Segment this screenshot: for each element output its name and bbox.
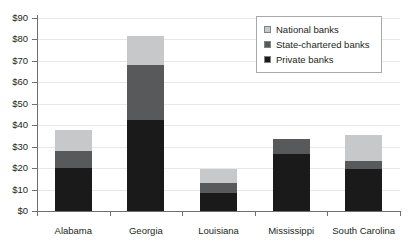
y-axis-tick-label: $30 (12, 142, 28, 152)
bar-segment (200, 169, 237, 183)
y-axis-tick-label: $20 (12, 163, 28, 173)
bar-segment (273, 139, 310, 154)
x-axis-tick-label: Alabama (55, 225, 93, 236)
x-axis-tick-label: Georgia (129, 225, 163, 236)
legend-item-label: Private banks (276, 55, 334, 65)
y-axis-tick-label: $50 (12, 99, 28, 109)
bar-segment (200, 183, 237, 193)
legend-swatch-icon (264, 26, 271, 33)
bar-segment (55, 168, 92, 211)
bar-segment (200, 193, 237, 211)
x-axis-tick-label: Louisiana (198, 225, 239, 236)
bar-segment (273, 154, 310, 211)
bar-segment (345, 169, 382, 211)
x-axis-tick-label: South Carolina (332, 225, 395, 236)
bar-segment (55, 151, 92, 168)
legend-item: State-chartered banks (264, 37, 375, 52)
x-axis-line (37, 211, 400, 212)
x-axis-tick (327, 211, 328, 216)
x-axis-tick (182, 211, 183, 216)
bar-group (200, 18, 237, 211)
x-axis-tick (110, 211, 111, 216)
x-axis-tick (255, 211, 256, 216)
bar-segment (127, 120, 164, 211)
legend-item: National banks (264, 22, 375, 37)
y-axis-tick-label: $70 (12, 56, 28, 66)
y-axis-tick-label: $0 (17, 206, 28, 216)
chart-legend: National banksState-chartered banksPriva… (256, 16, 382, 73)
y-axis-tick-label: $60 (12, 78, 28, 88)
y-axis-line (37, 15, 38, 214)
bar-segment (127, 65, 164, 120)
bar-segment (345, 135, 382, 161)
y-axis-tick-label: $40 (12, 120, 28, 130)
y-axis-tick-label: $90 (12, 13, 28, 23)
bar-group (127, 18, 164, 211)
y-axis-tick-label: $10 (12, 185, 28, 195)
bank-assets-stacked-bar-chart: $0$10$20$30$40$50$60$70$80$90 AlabamaGeo… (0, 0, 413, 249)
bar-segment (345, 161, 382, 170)
bar-segment (55, 130, 92, 151)
legend-item-label: State-chartered banks (276, 40, 369, 50)
bar-group (55, 18, 92, 211)
bar-segment (127, 36, 164, 65)
legend-item: Private banks (264, 52, 375, 67)
legend-item-label: National banks (276, 25, 339, 35)
x-axis-tick (400, 211, 401, 216)
legend-swatch-icon (264, 41, 271, 48)
y-axis-tick-label: $80 (12, 35, 28, 45)
x-axis-tick (37, 211, 38, 216)
legend-swatch-icon (264, 56, 271, 63)
x-axis-tick-label: Mississippi (268, 225, 314, 236)
